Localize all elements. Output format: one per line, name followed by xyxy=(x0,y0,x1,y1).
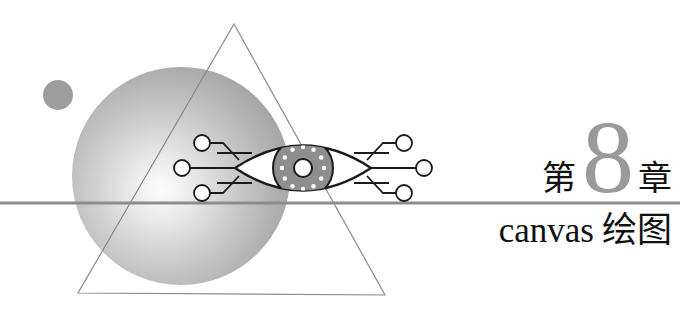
chapter-number-line: 第 8 章 xyxy=(372,112,672,201)
small-gray-circle xyxy=(43,80,73,110)
chapter-title-cjk: 绘图 xyxy=(602,210,672,250)
eye-pupil-core xyxy=(298,163,308,173)
chapter-cover-page: 第 8 章 canvas绘图 xyxy=(0,0,680,310)
chapter-suffix-label: 章 xyxy=(638,161,672,201)
chapter-number: 8 xyxy=(576,112,638,201)
chapter-prefix-label: 第 xyxy=(542,161,576,201)
chapter-title-line: canvas绘图 xyxy=(372,213,672,248)
chapter-heading: 第 8 章 canvas绘图 xyxy=(372,112,672,248)
chapter-title-latin: canvas xyxy=(499,211,594,250)
